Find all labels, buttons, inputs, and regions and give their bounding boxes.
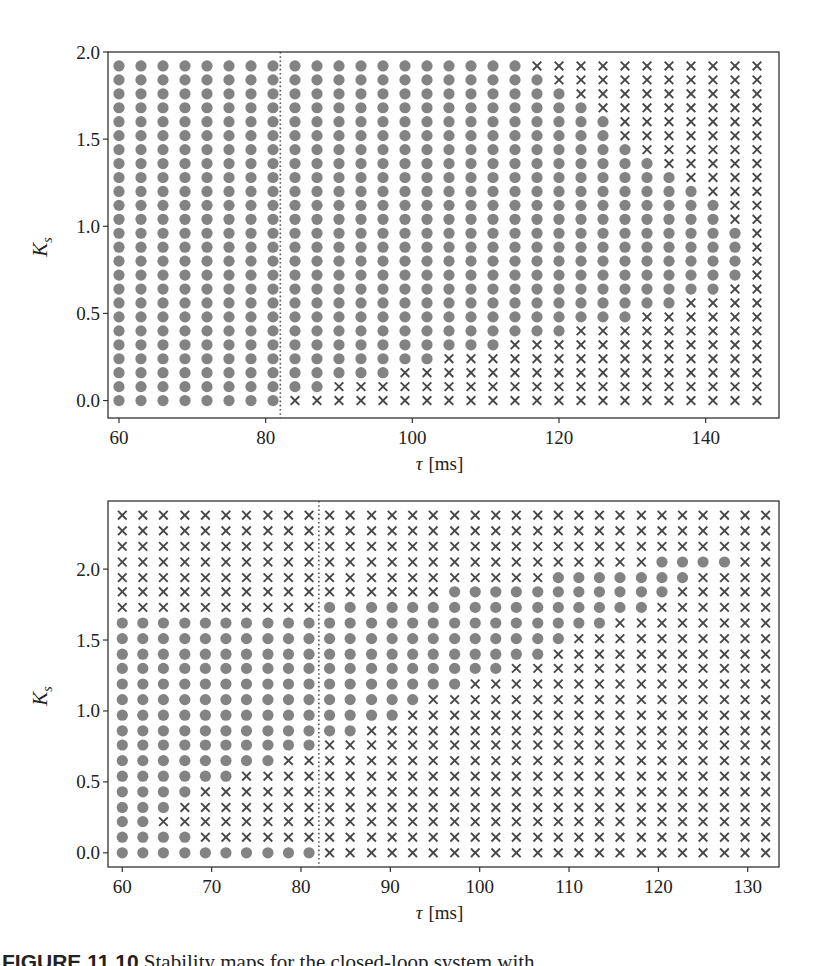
- unstable-cross-icon: [346, 511, 355, 520]
- stable-point: [283, 663, 294, 674]
- unstable-cross-icon: [699, 680, 708, 689]
- stable-point: [201, 186, 212, 197]
- unstable-cross-icon: [731, 145, 740, 154]
- unstable-cross-icon: [731, 76, 740, 85]
- stable-point: [157, 353, 168, 364]
- unstable-cross-icon: [678, 511, 687, 520]
- unstable-cross-icon: [687, 396, 696, 405]
- unstable-cross-icon: [577, 327, 586, 336]
- unstable-cross-icon: [658, 711, 667, 720]
- unstable-cross-icon: [616, 619, 625, 628]
- stable-point: [223, 60, 234, 71]
- stable-point: [531, 311, 542, 322]
- stable-point: [117, 710, 128, 721]
- unstable-cross-icon: [222, 573, 231, 582]
- stable-point: [421, 325, 432, 336]
- stable-point: [465, 242, 476, 253]
- stable-point: [267, 186, 278, 197]
- stable-point: [179, 116, 190, 127]
- stable-point: [179, 130, 190, 141]
- stable-point: [223, 339, 234, 350]
- unstable-cross-icon: [325, 511, 334, 520]
- stable-point: [407, 663, 418, 674]
- figure-caption: FIGURE 11.10 Stability maps for the clos…: [2, 950, 818, 966]
- stable-point: [135, 242, 146, 253]
- stable-point: [201, 353, 212, 364]
- unstable-cross-icon: [335, 396, 344, 405]
- unstable-cross-icon: [720, 803, 729, 812]
- stable-point: [223, 74, 234, 85]
- stable-point: [113, 325, 124, 336]
- stable-point: [241, 694, 252, 705]
- unstable-cross-icon: [637, 788, 646, 797]
- unstable-cross-icon: [637, 833, 646, 842]
- stable-point: [531, 88, 542, 99]
- stable-point: [223, 88, 234, 99]
- stable-point: [223, 311, 234, 322]
- unstable-cross-icon: [577, 354, 586, 363]
- stable-point: [619, 256, 630, 267]
- stable-point: [663, 172, 674, 183]
- unstable-cross-icon: [471, 772, 480, 781]
- unstable-cross-icon: [687, 368, 696, 377]
- unstable-cross-icon: [408, 542, 417, 551]
- stable-point: [399, 74, 410, 85]
- unstable-cross-icon: [637, 849, 646, 858]
- stable-point: [636, 602, 647, 613]
- stable-point: [355, 269, 366, 280]
- stable-point: [201, 74, 212, 85]
- unstable-cross-icon: [429, 756, 438, 765]
- stable-point: [179, 771, 190, 782]
- stable-point: [399, 130, 410, 141]
- unstable-cross-icon: [367, 558, 376, 567]
- unstable-cross-icon: [242, 772, 251, 781]
- unstable-cross-icon: [616, 741, 625, 750]
- unstable-cross-icon: [181, 542, 190, 551]
- data-markers: [113, 60, 761, 406]
- stable-point: [355, 242, 366, 253]
- unstable-cross-icon: [741, 849, 750, 858]
- stable-point: [575, 214, 586, 225]
- stable-point: [663, 228, 674, 239]
- unstable-cross-icon: [709, 368, 718, 377]
- unstable-cross-icon: [159, 817, 168, 826]
- unstable-cross-icon: [554, 526, 563, 535]
- unstable-cross-icon: [709, 117, 718, 126]
- stable-point: [245, 88, 256, 99]
- stable-point: [594, 602, 605, 613]
- unstable-cross-icon: [643, 341, 652, 350]
- unstable-cross-icon: [491, 542, 500, 551]
- unstable-cross-icon: [687, 76, 696, 85]
- stable-point: [553, 256, 564, 267]
- unstable-cross-icon: [720, 741, 729, 750]
- unstable-cross-icon: [491, 817, 500, 826]
- unstable-cross-icon: [577, 396, 586, 405]
- stable-point: [135, 367, 146, 378]
- stable-point: [135, 256, 146, 267]
- unstable-cross-icon: [429, 511, 438, 520]
- unstable-cross-icon: [678, 741, 687, 750]
- stable-point: [656, 572, 667, 583]
- stable-point: [113, 172, 124, 183]
- stable-point: [200, 710, 211, 721]
- stable-point: [223, 353, 234, 364]
- stable-point: [531, 228, 542, 239]
- unstable-cross-icon: [731, 341, 740, 350]
- stable-point: [333, 214, 344, 225]
- unstable-cross-icon: [709, 159, 718, 168]
- stable-point: [553, 144, 564, 155]
- stable-point: [421, 88, 432, 99]
- unstable-cross-icon: [379, 396, 388, 405]
- unstable-cross-icon: [577, 368, 586, 377]
- unstable-cross-icon: [445, 368, 454, 377]
- stable-point: [262, 678, 273, 689]
- unstable-cross-icon: [753, 62, 762, 71]
- unstable-cross-icon: [616, 558, 625, 567]
- unstable-cross-icon: [533, 341, 542, 350]
- stable-point: [449, 617, 460, 628]
- unstable-cross-icon: [450, 542, 459, 551]
- stable-point: [303, 617, 314, 628]
- stable-point: [465, 283, 476, 294]
- unstable-cross-icon: [699, 772, 708, 781]
- stable-point: [531, 130, 542, 141]
